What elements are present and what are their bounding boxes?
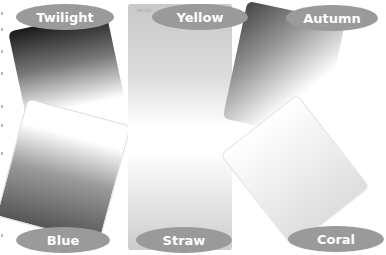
edge-mark xyxy=(1,28,3,31)
edge-mark xyxy=(1,72,3,75)
filter-code-text: HG 221 xyxy=(137,8,152,13)
filter-yellow-straw-card xyxy=(128,4,232,250)
label-coral: Coral xyxy=(288,226,384,252)
edge-mark xyxy=(1,234,3,237)
edge-mark xyxy=(1,50,3,53)
label-yellow: Yellow xyxy=(152,4,248,30)
label-twilight: Twilight xyxy=(16,4,114,30)
label-autumn: Autumn xyxy=(286,5,378,31)
filter-blue-card xyxy=(0,98,131,244)
edge-mark xyxy=(1,152,3,155)
edge-mark xyxy=(1,124,3,127)
edge-mark xyxy=(1,105,3,108)
edge-mark xyxy=(1,12,3,15)
label-straw: Straw xyxy=(136,227,232,253)
label-blue: Blue xyxy=(16,227,110,253)
